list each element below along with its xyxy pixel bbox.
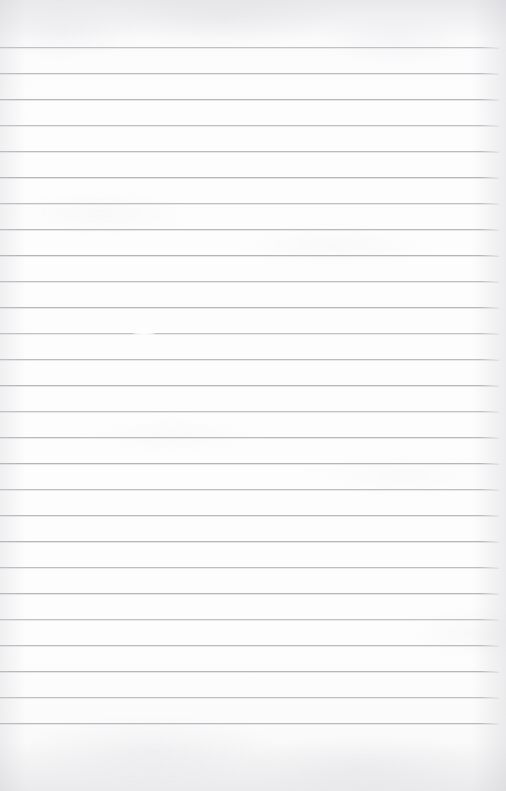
rule-line — [0, 515, 499, 516]
rule-line — [0, 385, 499, 386]
rule-line — [0, 47, 499, 48]
rule-line — [0, 463, 499, 464]
rule-line — [0, 99, 499, 100]
rule-line — [0, 203, 499, 204]
rule-line — [0, 567, 499, 568]
rule-line — [0, 125, 499, 126]
rule-line — [0, 177, 499, 178]
rule-line — [0, 307, 499, 308]
rule-line — [0, 489, 499, 490]
rule-line — [0, 151, 499, 152]
rule-line — [0, 645, 499, 646]
rule-line — [0, 229, 499, 230]
rule-line — [0, 437, 499, 438]
rule-line — [0, 333, 499, 334]
rule-line — [0, 671, 499, 672]
ruled-notebook-page — [0, 0, 506, 791]
rule-line — [0, 593, 499, 594]
rule-line — [0, 359, 499, 360]
rule-line — [0, 723, 499, 724]
rule-line — [0, 281, 499, 282]
rule-line — [0, 619, 499, 620]
rule-line — [0, 697, 499, 698]
rule-line — [0, 541, 499, 542]
rule-line — [0, 73, 499, 74]
ruled-lines-group — [0, 0, 506, 791]
rule-line — [0, 411, 499, 412]
rule-line — [0, 255, 499, 256]
